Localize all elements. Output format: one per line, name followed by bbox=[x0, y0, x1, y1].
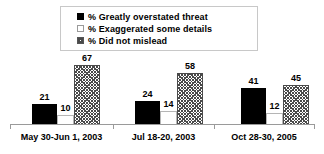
bar-wrap: 58 bbox=[177, 52, 203, 125]
bar-wrap: 10 bbox=[57, 52, 74, 125]
bar-value-label: 12 bbox=[266, 102, 283, 111]
bar-did-not-mislead bbox=[283, 85, 309, 125]
bar-wrap: 12 bbox=[266, 52, 283, 125]
bar-greatly-overstated-threat bbox=[32, 104, 57, 125]
bar-value-label: 67 bbox=[74, 54, 100, 63]
bar-value-label: 14 bbox=[160, 100, 177, 109]
bar-value-label: 24 bbox=[135, 90, 160, 99]
open-white-square-icon bbox=[77, 25, 84, 32]
bar-value-label: 45 bbox=[283, 74, 309, 83]
bar-did-not-mislead bbox=[74, 65, 100, 125]
hatched-square-icon bbox=[77, 37, 84, 44]
bar-wrap: 41 bbox=[241, 52, 266, 125]
legend-item-label: % Exaggerated some details bbox=[88, 24, 212, 34]
bar-wrap: 67 bbox=[74, 52, 100, 125]
bar-greatly-overstated-threat bbox=[241, 88, 266, 125]
legend-item-label: % Did not mislead bbox=[88, 36, 167, 46]
axis-label-jul-18-20-2003: Jul 18-20, 2003 bbox=[113, 132, 214, 143]
plot-area: 21 10 67 24 14 bbox=[0, 52, 324, 125]
axis-tick bbox=[214, 124, 215, 129]
bar-wrap: 24 bbox=[135, 52, 160, 125]
bar-value-label: 10 bbox=[57, 104, 74, 113]
axis-tick bbox=[113, 124, 114, 129]
axis-label-oct-28-30-2005: Oct 28-30, 2005 bbox=[214, 132, 314, 143]
x-axis-line bbox=[10, 124, 315, 125]
bar-greatly-overstated-threat bbox=[135, 101, 160, 125]
x-axis-labels: May 30-Jun 1, 2003 Jul 18-20, 2003 Oct 2… bbox=[0, 132, 324, 146]
legend-item-greatly-overstated-threat: % Greatly overstated threat bbox=[77, 11, 257, 22]
legend-item-label: % Greatly overstated threat bbox=[88, 12, 208, 22]
bar-wrap: 45 bbox=[283, 52, 309, 125]
legend-item-did-not-mislead: % Did not mislead bbox=[77, 35, 257, 46]
chart-legend: % Greatly overstated threat % Exaggerate… bbox=[60, 6, 258, 51]
bar-value-label: 21 bbox=[32, 93, 57, 102]
bar-wrap: 21 bbox=[32, 52, 57, 125]
bar-did-not-mislead bbox=[177, 73, 203, 125]
bar-value-label: 41 bbox=[241, 77, 266, 86]
bar-wrap: 14 bbox=[160, 52, 177, 125]
bar-exaggerated-some-details bbox=[160, 111, 177, 125]
axis-label-may-30-jun-1-2003: May 30-Jun 1, 2003 bbox=[10, 132, 113, 143]
solid-black-square-icon bbox=[77, 13, 84, 20]
legend-item-exaggerated-some-details: % Exaggerated some details bbox=[77, 23, 257, 34]
bar-value-label: 58 bbox=[177, 62, 203, 71]
bar-chart: % Greatly overstated threat % Exaggerate… bbox=[0, 0, 324, 154]
axis-tick bbox=[314, 124, 315, 129]
axis-tick bbox=[10, 124, 11, 129]
